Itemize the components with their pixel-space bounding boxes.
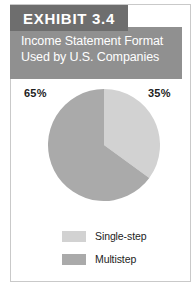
exhibit-subtitle-line-1: Income Statement Format xyxy=(21,34,182,50)
pie-label-multistep-percent: 65% xyxy=(24,87,47,99)
exhibit-number-label: EXHIBIT 3.4 xyxy=(23,10,115,27)
pie-chart-svg xyxy=(48,89,160,201)
legend-item-single-step: Single-step xyxy=(62,227,182,245)
chart-legend: Single-step Multistep xyxy=(62,227,182,273)
chart-plot-area: 65% 35% Single-step Multistep xyxy=(11,79,190,281)
legend-item-multistep: Multistep xyxy=(62,250,182,268)
legend-swatch-single-step xyxy=(62,231,86,242)
legend-label-multistep: Multistep xyxy=(95,253,136,265)
legend-label-single-step: Single-step xyxy=(95,230,146,242)
legend-swatch-multistep xyxy=(62,254,86,265)
exhibit-banner: EXHIBIT 3.4 xyxy=(10,5,128,31)
exhibit-subtitle-line-2: Used by U.S. Companies xyxy=(21,50,182,66)
exhibit-subtitle-band: Income Statement Format Used by U.S. Com… xyxy=(10,27,182,79)
exhibit-figure: Income Statement Format Used by U.S. Com… xyxy=(0,0,195,289)
pie-chart xyxy=(48,89,160,201)
